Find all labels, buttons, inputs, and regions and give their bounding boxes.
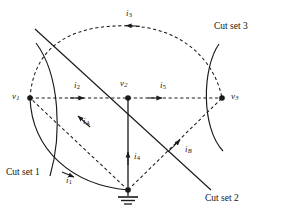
ground-icon <box>118 190 138 204</box>
current-label-iB: iB <box>185 145 192 155</box>
node-v3-dot <box>219 95 225 101</box>
current-label-i3: i3 <box>126 9 132 19</box>
cutset-graph-figure: v1 v2 v3 i1 i2 i3 i4 i5 iA iB Cut set 1 … <box>0 0 282 215</box>
node-v2-dot <box>125 95 131 101</box>
current-label-iA: iA <box>83 117 90 127</box>
current-label-i2: i2 <box>74 81 80 91</box>
cut-set-2-label: Cut set 2 <box>205 194 239 204</box>
current-label-i1: i1 <box>66 176 72 186</box>
cut-set-1-label: Cut set 1 <box>6 168 40 178</box>
branch-iB-arrowhead <box>168 140 180 152</box>
node-label-v1: v1 <box>12 92 19 102</box>
current-label-i4: i4 <box>134 152 140 162</box>
branch-i3-arrowhead <box>126 26 140 27</box>
cut-set-3-label: Cut set 3 <box>214 22 248 32</box>
node-label-v3: v3 <box>231 92 238 102</box>
graph-canvas <box>0 0 282 215</box>
node-v1-dot <box>27 95 33 101</box>
cut-set-2-line <box>35 29 211 190</box>
node-label-v2: v2 <box>120 79 127 89</box>
current-label-i5: i5 <box>160 81 166 91</box>
